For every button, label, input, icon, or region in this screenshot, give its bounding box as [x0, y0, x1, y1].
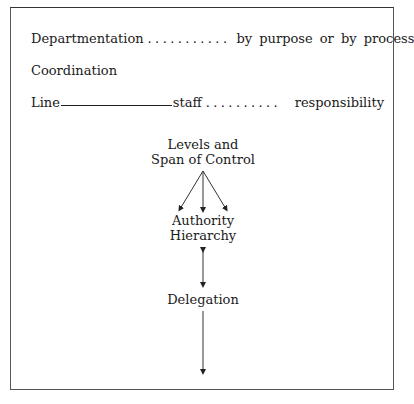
fan-out-arrows	[180, 171, 226, 210]
arrow-right-icon	[203, 171, 226, 209]
arrow-left-icon	[180, 171, 203, 209]
